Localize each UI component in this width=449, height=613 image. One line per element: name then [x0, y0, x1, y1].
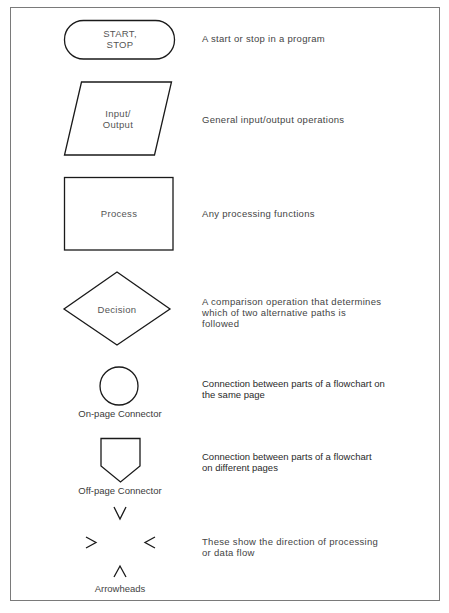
terminator-description: A start or stop in a program: [202, 33, 325, 44]
arrowheads-description: These show the direction of processing o…: [202, 536, 378, 558]
arrowhead-up-icon: [114, 566, 126, 577]
off-page-connector-caption: Off-page Connector: [70, 485, 170, 496]
process-label: Process: [88, 208, 150, 219]
terminator-label: START, STOP: [94, 28, 146, 50]
arrowhead-right-icon: [86, 537, 96, 548]
on-page-connector-shape: [100, 367, 138, 405]
input-output-label: Input/ Output: [92, 108, 144, 130]
input-output-description: General input/output operations: [202, 114, 344, 125]
decision-description: A comparison operation that determines w…: [202, 296, 381, 329]
on-page-connector-description: Connection between parts of a flowchart …: [202, 378, 385, 400]
arrowhead-left-icon: [145, 537, 155, 548]
off-page-connector-description: Connection between parts of a flowchart …: [202, 451, 372, 473]
arrowheads-caption: Arrowheads: [80, 583, 160, 594]
decision-label: Decision: [86, 304, 148, 315]
off-page-connector-shape: [101, 439, 140, 483]
on-page-connector-caption: On-page Connector: [70, 408, 170, 419]
process-description: Any processing functions: [202, 208, 315, 219]
arrowhead-down-icon: [114, 507, 126, 519]
